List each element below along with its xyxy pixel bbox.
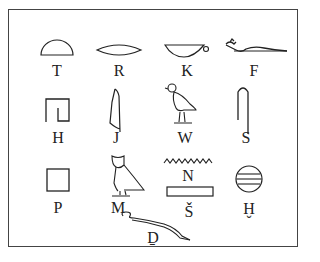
horned-viper-icon (224, 38, 288, 54)
pool-icon (166, 186, 214, 198)
mouth-icon (96, 43, 142, 57)
owl-icon (108, 155, 146, 197)
placenta-icon (235, 165, 265, 195)
label-f: F (239, 63, 269, 79)
label-t: T (42, 63, 72, 79)
courtyard-icon (45, 98, 71, 122)
label-h: H (43, 130, 73, 146)
bread-loaf-icon (40, 40, 74, 56)
quail-chick-icon (162, 82, 200, 124)
label-r: R (104, 63, 134, 79)
label-s: S (231, 130, 261, 146)
cobra-icon (108, 88, 124, 133)
water-ripple-icon (164, 158, 214, 166)
label-k: K (172, 63, 202, 79)
label-n: N (173, 168, 203, 184)
label-j: J (101, 130, 131, 146)
stool-icon (46, 168, 70, 192)
label-kh: Ḫ (234, 201, 264, 217)
label-w: W (170, 130, 200, 146)
basket-icon (164, 44, 210, 58)
label-dj: Ḏ (138, 230, 168, 246)
folded-cloth-icon (236, 86, 250, 134)
label-p: P (43, 200, 73, 216)
